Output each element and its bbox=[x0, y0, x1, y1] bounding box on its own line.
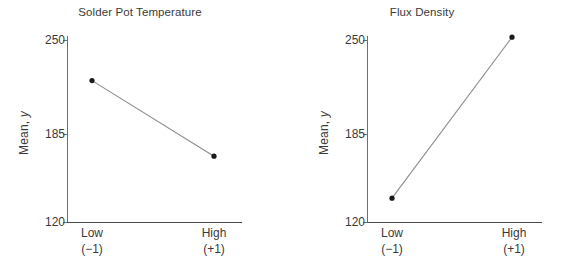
panel-solder-pot-temperature: Solder Pot Temperature 250 185 120 Mean,… bbox=[0, 0, 282, 272]
series-line-and-markers bbox=[0, 0, 282, 272]
panel-flux-density: Flux Density 250 185 120 Mean, y Low (−1… bbox=[282, 0, 564, 272]
data-point-high bbox=[509, 35, 514, 40]
data-point-low bbox=[89, 78, 94, 83]
series-line-and-markers bbox=[282, 0, 564, 272]
interaction-plot-figure: Solder Pot Temperature 250 185 120 Mean,… bbox=[0, 0, 564, 272]
data-point-high bbox=[211, 154, 216, 159]
data-point-low bbox=[389, 196, 394, 201]
